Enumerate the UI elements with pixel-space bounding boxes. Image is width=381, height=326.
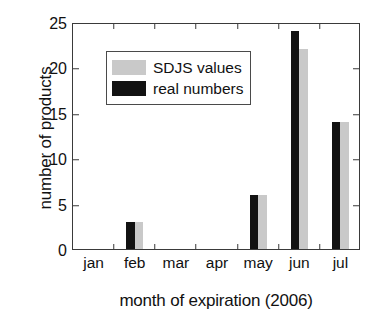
x-axis-tick-mark xyxy=(196,244,197,249)
legend-entry-real-numbers: real numbers xyxy=(112,78,243,99)
x-axis-tick-label: mar xyxy=(162,254,189,272)
y-axis-tick-mark xyxy=(353,114,359,115)
y-axis-tick-mark xyxy=(353,69,359,70)
bar-jun-real-numbers xyxy=(291,31,300,249)
x-axis-tick-mark xyxy=(113,24,114,29)
y-axis-title: number of products xyxy=(36,18,56,258)
y-axis-tick-label: 10 xyxy=(49,151,67,169)
legend-label-real-numbers: real numbers xyxy=(153,81,243,97)
y-axis-tick-label: 0 xyxy=(58,242,67,260)
legend: SDJS values real numbers xyxy=(106,51,251,105)
x-axis-tick-label: apr xyxy=(206,254,228,272)
x-axis-tick-mark xyxy=(237,24,238,29)
x-axis-tick-mark xyxy=(155,24,156,29)
y-axis-tick-label: 20 xyxy=(49,60,67,78)
x-axis-tick-label: jan xyxy=(83,254,104,272)
bar-feb-sdjs-values xyxy=(135,222,144,249)
y-axis-tick-label: 25 xyxy=(49,15,67,33)
x-axis-tick-mark xyxy=(278,244,279,249)
x-axis-tick-mark xyxy=(155,244,156,249)
y-axis-tick-mark xyxy=(73,159,79,160)
bar-may-sdjs-values xyxy=(258,195,267,249)
x-axis-tick-mark xyxy=(113,244,114,249)
x-axis-tick-label: jun xyxy=(289,254,310,272)
bar-feb-real-numbers xyxy=(126,222,135,249)
legend-swatch-real-numbers-icon xyxy=(112,81,146,96)
x-axis-tick-mark xyxy=(237,244,238,249)
y-axis-tick-mark xyxy=(353,159,359,160)
y-axis-tick-label: 15 xyxy=(49,106,67,124)
y-axis-tick-label: 5 xyxy=(58,197,67,215)
legend-swatch-sdjs-icon xyxy=(112,60,146,75)
legend-entry-sdjs: SDJS values xyxy=(112,57,243,78)
x-axis-tick-label: jul xyxy=(333,254,349,272)
y-axis-tick-mark xyxy=(73,114,79,115)
bar-jul-real-numbers xyxy=(332,122,341,249)
legend-label-sdjs: SDJS values xyxy=(153,60,242,76)
y-axis-tick-mark xyxy=(353,205,359,206)
x-axis-tick-mark xyxy=(278,24,279,29)
bar-jun-sdjs-values xyxy=(299,49,308,249)
x-axis-tick-label: feb xyxy=(124,254,146,272)
x-axis-tick-label: may xyxy=(243,254,272,272)
plot-area: 0510152025janfebmaraprmayjunjul SDJS val… xyxy=(72,23,360,250)
x-axis-tick-mark xyxy=(319,244,320,249)
x-axis-title: month of expiration (2006) xyxy=(72,291,360,311)
bar-may-real-numbers xyxy=(250,195,259,249)
x-axis-tick-mark xyxy=(319,24,320,29)
y-axis-tick-mark xyxy=(73,205,79,206)
y-axis-tick-mark xyxy=(73,69,79,70)
bar-jul-sdjs-values xyxy=(340,122,349,249)
bar-chart-figure: number of products 0510152025janfebmarap… xyxy=(0,0,381,326)
x-axis-tick-mark xyxy=(196,24,197,29)
